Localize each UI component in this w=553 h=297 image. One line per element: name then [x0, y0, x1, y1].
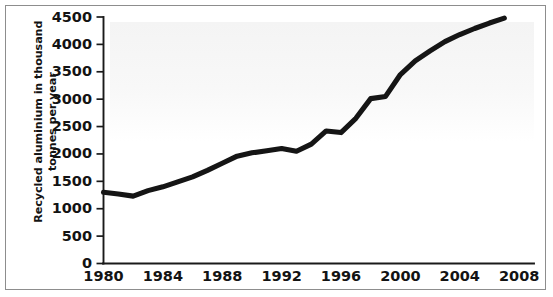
x-tick-label: 2008 — [499, 268, 539, 284]
y-tick-label: 1500 — [52, 173, 92, 189]
x-tick-label: 1988 — [202, 268, 242, 284]
y-tick-label: 4500 — [52, 9, 92, 25]
y-tick-label: 4000 — [52, 36, 92, 52]
y-tick-label-group: 050010001500200025003000350040004500 — [52, 9, 92, 272]
x-tick-label: 1980 — [83, 268, 123, 284]
y-tick-label: 3000 — [52, 91, 92, 107]
x-tick-label: 2000 — [380, 268, 420, 284]
x-tick-label-group: 19801984198819921996200020042008 — [83, 268, 539, 284]
x-tick-label: 1996 — [321, 268, 361, 284]
y-tick-label: 3500 — [52, 63, 92, 79]
line-chart-plot: 050010001500200025003000350040004500 198… — [0, 0, 553, 297]
y-tick-label: 1000 — [52, 200, 92, 216]
x-tick-label: 1992 — [261, 268, 301, 284]
data-series-line — [104, 18, 505, 196]
y-tick-mark-group — [97, 17, 104, 264]
figure-root: Recycled aluminium in thousand tonnes pe… — [0, 0, 553, 297]
x-tick-label: 1984 — [143, 268, 183, 284]
x-tick-label: 2004 — [440, 268, 480, 284]
y-tick-label: 2000 — [52, 145, 92, 161]
y-tick-label: 500 — [62, 228, 92, 244]
y-tick-label: 2500 — [52, 118, 92, 134]
